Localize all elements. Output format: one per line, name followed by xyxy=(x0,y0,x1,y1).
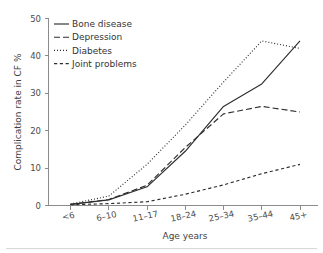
series-line-depression xyxy=(71,106,301,204)
legend-label-joint-problems: Joint problems xyxy=(71,59,137,69)
x-tick-label: 45+ xyxy=(289,209,309,223)
x-tick-label: 35–44 xyxy=(247,208,274,223)
x-tick-label: 11–17 xyxy=(132,208,159,223)
x-axis-title: Age years xyxy=(162,231,207,241)
chart-figure: 50 40 30 20 10 0 Complication rate in CF… xyxy=(0,0,323,253)
legend-label-depression: Depression xyxy=(72,32,122,42)
x-tick-label: 18–24 xyxy=(170,208,197,223)
chart-legend: Bone diseaseDepressionDiabetesJoint prob… xyxy=(54,19,137,69)
line-chart: 50 40 30 20 10 0 Complication rate in CF… xyxy=(0,0,323,253)
y-axis-title: Complication rate in CF % xyxy=(13,53,23,170)
y-tick-label: 50 xyxy=(30,14,41,24)
y-tick-label: 20 xyxy=(30,126,41,136)
y-axis-ticks xyxy=(45,19,49,206)
series-line-joint-problems xyxy=(71,164,301,204)
y-tick-label: 0 xyxy=(36,201,41,211)
y-axis-tick-labels: 50 40 30 20 10 0 xyxy=(30,14,41,211)
y-tick-label: 40 xyxy=(30,51,41,61)
legend-label-diabetes: Diabetes xyxy=(72,46,112,56)
legend-label-bone-disease: Bone disease xyxy=(72,19,132,29)
y-tick-label: 10 xyxy=(30,163,41,173)
x-tick-label: <6 xyxy=(61,210,75,222)
y-tick-label: 30 xyxy=(30,88,41,98)
x-tick-label: 6–10 xyxy=(95,209,117,223)
x-tick-label: 25–34 xyxy=(208,208,235,223)
x-axis-tick-labels: <6 6–10 11–17 18–24 25–34 35–44 45+ xyxy=(61,208,308,223)
